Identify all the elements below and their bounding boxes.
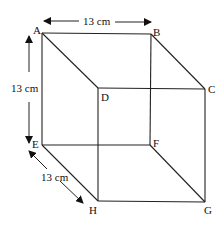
vertex-label-D: D [101,91,109,103]
edge-FG [150,145,205,202]
edge-AD [42,33,98,88]
cube-diagram: 13 cm 13 cm 13 cm A B C D E F G H [0,0,224,227]
edge-AB [42,33,151,34]
depth-label: 13 cm [41,171,69,183]
vertex-label-E: E [32,138,39,150]
edge-BC [151,34,205,89]
edge-DC [98,88,205,89]
vertex-label-A: A [33,24,41,36]
depth-arrow-up [29,151,47,169]
edge-HG [98,201,205,202]
width-dimension: 13 cm [44,15,151,27]
vertex-labels: A B C D E F G H [32,24,215,216]
edge-BF [150,34,151,145]
vertex-label-B: B [153,26,160,38]
height-label: 13 cm [11,82,39,94]
height-dimension: 13 cm [11,36,39,143]
vertex-label-C: C [208,83,215,95]
vertex-label-G: G [204,204,212,216]
depth-arrow-down [60,181,83,203]
vertex-label-F: F [153,137,159,149]
width-label: 13 cm [83,15,111,27]
vertex-label-H: H [89,204,97,216]
